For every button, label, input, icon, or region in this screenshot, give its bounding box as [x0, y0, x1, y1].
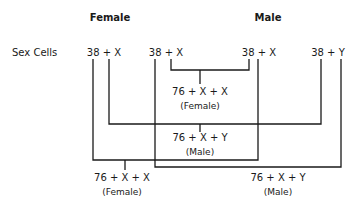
- offspring-4-formula: 76 + X + Y: [250, 172, 305, 184]
- sex-cell-female-2: 38 + X: [149, 47, 183, 59]
- offspring-2-sex: (Male): [186, 146, 214, 158]
- sex-cell-male-x: 38 + X: [242, 47, 276, 59]
- offspring-3-sex: (Female): [102, 186, 142, 198]
- offspring-1-sex: (Female): [180, 100, 220, 112]
- offspring-2-formula: 76 + X + Y: [172, 132, 227, 144]
- sex-cells-label: Sex Cells: [12, 47, 57, 59]
- offspring-3-formula: 76 + X + X: [94, 172, 150, 184]
- female-header: Female: [90, 12, 131, 24]
- sex-cell-female-1: 38 + X: [87, 47, 121, 59]
- offspring-4-sex: (Male): [264, 186, 292, 198]
- offspring-1-formula: 76 + X + X: [172, 86, 228, 98]
- sex-cell-male-y: 38 + Y: [311, 47, 345, 59]
- male-header: Male: [255, 12, 282, 24]
